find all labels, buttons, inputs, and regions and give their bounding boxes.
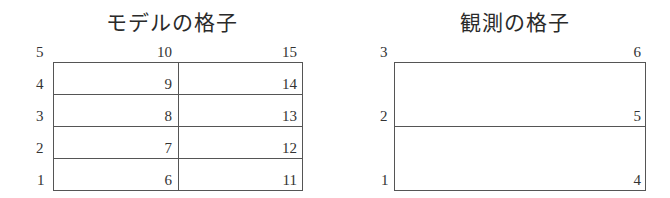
model-row-label-4: 4 (36, 77, 44, 92)
obs-right-label-4: 4 (620, 173, 641, 188)
obs-grid-title: 観測の格子 (460, 6, 570, 36)
obs-left-label-3: 3 (380, 45, 388, 60)
model-grid-title: モデルの格子 (106, 6, 238, 36)
obs-grid (394, 62, 646, 191)
model-col2-label-14: 14 (264, 77, 297, 92)
model-col2-label-12: 12 (264, 141, 297, 156)
obs-grid-hline-middle (395, 126, 645, 127)
obs-left-label-1: 1 (381, 173, 389, 188)
model-col1-label-7: 7 (140, 141, 172, 156)
model-col2-label-15: 15 (264, 45, 297, 60)
model-col2-label-11: 11 (264, 173, 297, 188)
obs-left-label-2: 2 (380, 109, 388, 124)
model-col2-label-13: 13 (264, 109, 297, 124)
model-col1-label-9: 9 (140, 77, 172, 92)
model-row-label-5: 5 (36, 45, 44, 60)
model-col1-label-8: 8 (140, 109, 172, 124)
model-col1-label-10: 10 (140, 45, 172, 60)
obs-right-label-6: 6 (620, 45, 641, 60)
obs-right-label-5: 5 (620, 109, 641, 124)
model-row-label-2: 2 (36, 141, 44, 156)
model-row-label-3: 3 (36, 109, 44, 124)
model-row-label-1: 1 (37, 173, 45, 188)
model-col1-label-6: 6 (140, 173, 172, 188)
model-grid-vline (178, 63, 179, 190)
